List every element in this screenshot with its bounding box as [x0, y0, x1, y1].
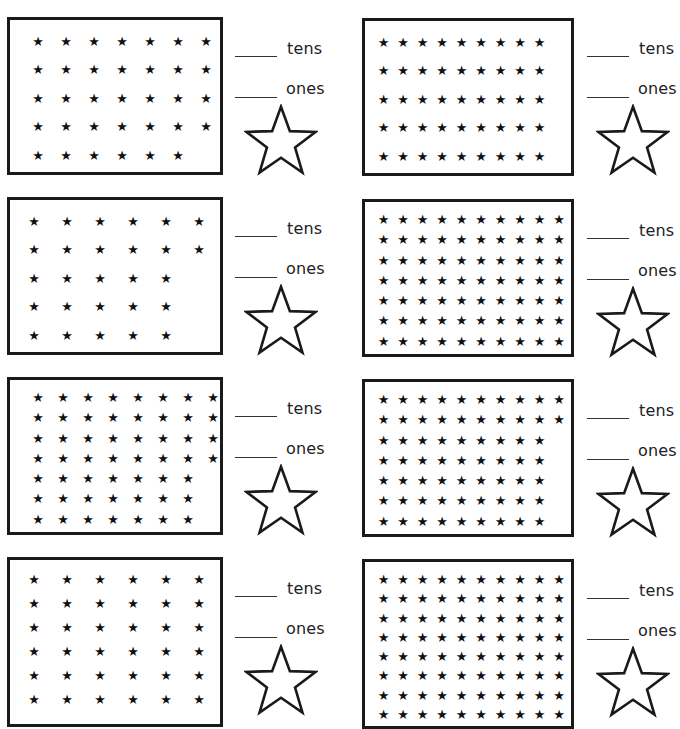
- star-icon: ★: [415, 666, 430, 685]
- star-icon: ★: [189, 568, 209, 592]
- star-icon: ★: [474, 390, 489, 410]
- star-icon: ★: [128, 388, 148, 408]
- ones-answer-blank[interactable]: [587, 459, 629, 460]
- star-icon: ★: [454, 251, 469, 271]
- star-icon: ★: [103, 489, 123, 509]
- star-icon: ★: [28, 388, 48, 408]
- star-icon: ★: [153, 469, 173, 489]
- ones-answer-blank[interactable]: [587, 639, 629, 640]
- ones-answer-blank[interactable]: [235, 637, 277, 638]
- star-icon: ★: [493, 491, 508, 511]
- tens-answer-blank[interactable]: [235, 236, 277, 237]
- star-icon: ★: [57, 568, 77, 592]
- star-icon: ★: [454, 86, 469, 114]
- tens-answer-blank[interactable]: [587, 418, 629, 419]
- star-icon: ★: [454, 332, 469, 352]
- star-box-3: ★★★★★★★★★★★★★★★★★★★★★★★★★★★: [7, 197, 223, 355]
- star-icon: ★: [24, 236, 44, 264]
- star-icon: ★: [493, 609, 508, 628]
- star-icon: ★: [376, 628, 391, 647]
- star-icon: ★: [513, 471, 528, 491]
- ones-answer-blank[interactable]: [235, 97, 277, 98]
- star-icon: ★: [112, 113, 132, 141]
- star-icon: ★: [57, 236, 77, 264]
- tens-answer-blank[interactable]: [587, 56, 629, 57]
- star-icon: ★: [396, 311, 411, 331]
- star-icon: ★: [128, 449, 148, 469]
- star-box-8: ★★★★★★★★★★★★★★★★★★★★★★★★★★★★★★★★★★★★★★★★…: [362, 559, 574, 729]
- star-icon: ★: [156, 208, 176, 236]
- star-icon: ★: [513, 57, 528, 85]
- star-icon: ★: [84, 85, 104, 113]
- empty-cell: [189, 322, 209, 350]
- star-icon: ★: [474, 647, 489, 666]
- star-icon: ★: [415, 390, 430, 410]
- star-icon: ★: [454, 512, 469, 532]
- star-icon: ★: [435, 114, 450, 142]
- star-icon: ★: [474, 251, 489, 271]
- star-icon: ★: [474, 210, 489, 230]
- star-icon: ★: [493, 114, 508, 142]
- star-icon: ★: [415, 291, 430, 311]
- star-icon: ★: [396, 705, 411, 724]
- star-icon: ★: [128, 429, 148, 449]
- star-box-7: ★★★★★★★★★★★★★★★★★★★★★★★★★★★★★★★★★★★★: [7, 557, 223, 727]
- star-icon: ★: [396, 271, 411, 291]
- star-icon: ★: [57, 265, 77, 293]
- star-icon: ★: [24, 640, 44, 664]
- star-icon: ★: [56, 142, 76, 170]
- star-icon: ★: [376, 491, 391, 511]
- star-icon: ★: [493, 451, 508, 471]
- tens-answer-blank[interactable]: [235, 416, 277, 417]
- star-icon: ★: [396, 251, 411, 271]
- star-icon: ★: [532, 251, 547, 271]
- star-icon: ★: [552, 210, 567, 230]
- star-icon: ★: [396, 512, 411, 532]
- star-icon: ★: [415, 230, 430, 250]
- star-icon: ★: [28, 429, 48, 449]
- tens-answer-blank[interactable]: [587, 238, 629, 239]
- star-icon: ★: [56, 56, 76, 84]
- star-icon: ★: [156, 265, 176, 293]
- star-icon: ★: [123, 293, 143, 321]
- ones-answer-blank[interactable]: [235, 457, 277, 458]
- star-icon: ★: [396, 410, 411, 430]
- star-icon: ★: [78, 388, 98, 408]
- ones-answer-blank[interactable]: [235, 277, 277, 278]
- star-icon: ★: [532, 29, 547, 57]
- star-icon: ★: [396, 491, 411, 511]
- star-icon: ★: [196, 28, 216, 56]
- tens-answer-blank[interactable]: [235, 596, 277, 597]
- tens-answer-blank[interactable]: [235, 56, 277, 57]
- star-icon: ★: [140, 56, 160, 84]
- star-icon: ★: [28, 113, 48, 141]
- star-icon: ★: [474, 686, 489, 705]
- tens-answer-blank[interactable]: [587, 598, 629, 599]
- star-icon: ★: [396, 86, 411, 114]
- star-icon: ★: [112, 85, 132, 113]
- star-icon: ★: [493, 143, 508, 171]
- star-icon: ★: [454, 628, 469, 647]
- ones-answer-blank[interactable]: [587, 97, 629, 98]
- star-icon: ★: [552, 251, 567, 271]
- star-icon: ★: [376, 29, 391, 57]
- star-icon: ★: [178, 469, 198, 489]
- empty-cell: [552, 512, 567, 532]
- star-icon: ★: [123, 236, 143, 264]
- star-icon: ★: [493, 210, 508, 230]
- star-icon: ★: [178, 510, 198, 530]
- empty-cell: [552, 451, 567, 471]
- star-icon: ★: [454, 271, 469, 291]
- ones-answer-blank[interactable]: [587, 279, 629, 280]
- star-icon: ★: [513, 410, 528, 430]
- star-icon: ★: [376, 271, 391, 291]
- star-icon: ★: [552, 666, 567, 685]
- star-box-6: ★★★★★★★★★★★★★★★★★★★★★★★★★★★★★★★★★★★★★★★★…: [362, 379, 574, 537]
- star-icon: ★: [415, 114, 430, 142]
- outline-star-icon: [596, 286, 670, 362]
- star-icon: ★: [474, 491, 489, 511]
- star-icon: ★: [474, 570, 489, 589]
- star-icon: ★: [454, 471, 469, 491]
- star-icon: ★: [493, 647, 508, 666]
- star-icon: ★: [396, 471, 411, 491]
